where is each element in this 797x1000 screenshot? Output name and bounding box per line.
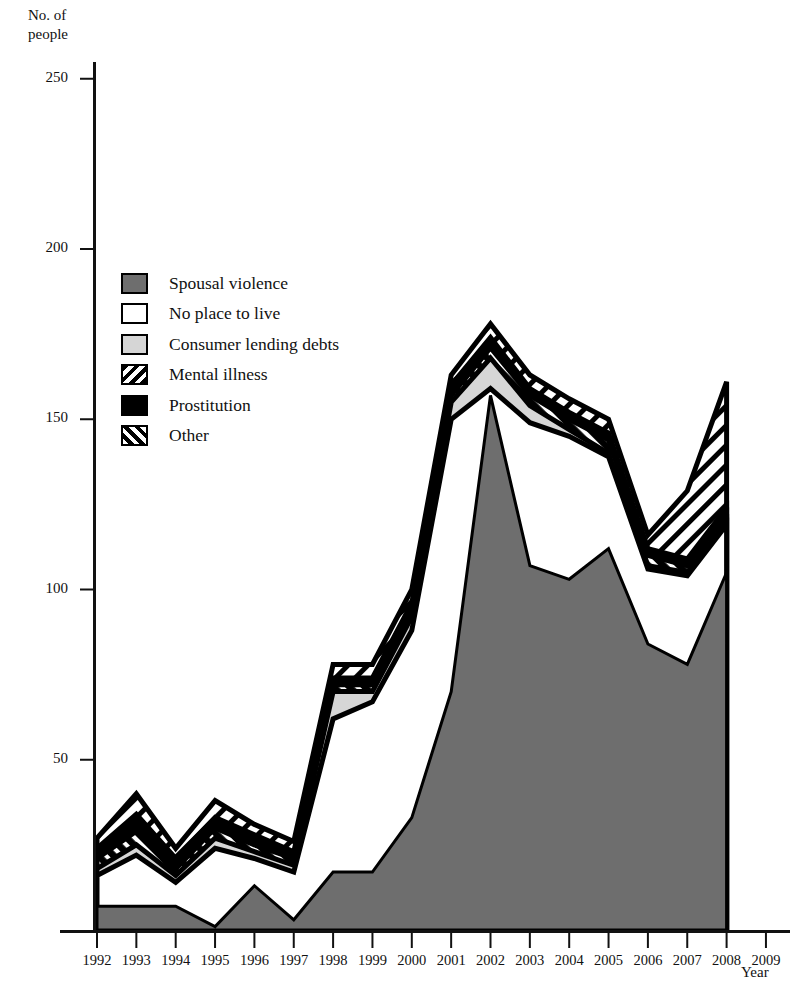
- y-tick-label: 150: [10, 409, 68, 426]
- legend-item-other[interactable]: Other: [121, 421, 339, 452]
- y-tick-label: 50: [10, 750, 68, 767]
- legend-item-label: No place to live: [169, 303, 280, 324]
- x-tick-label: 1995: [201, 952, 230, 969]
- x-tick-label: 1999: [358, 952, 387, 969]
- x-tick-label: 2005: [594, 952, 623, 969]
- x-tick-label: 2003: [515, 952, 544, 969]
- legend-item-prostitution[interactable]: Prostitution: [121, 390, 339, 421]
- x-tick-label: 1993: [122, 952, 151, 969]
- legend-swatch-icon: [121, 395, 148, 416]
- legend-item-no-place-to-live[interactable]: No place to live: [121, 299, 339, 330]
- legend-swatch-icon: [121, 273, 148, 294]
- legend-item-consumer-lending-debts[interactable]: Consumer lending debts: [121, 329, 339, 360]
- legend-swatch-icon: [121, 364, 148, 385]
- legend-item-label: Prostitution: [169, 395, 251, 416]
- x-tick-label: 2008: [712, 952, 741, 969]
- legend-item-label: Consumer lending debts: [169, 334, 339, 355]
- legend-swatch-icon: [121, 303, 148, 324]
- y-axis-title: No. of people: [28, 6, 68, 44]
- stacked-area-chart: No. of people Year: [0, 0, 797, 1000]
- x-tick-label: 1994: [161, 952, 190, 969]
- x-tick-label: 1997: [279, 952, 308, 969]
- x-tick-marks: [97, 933, 766, 948]
- legend-item-spousal-violence[interactable]: Spousal violence: [121, 268, 339, 299]
- chart-plot-area: [0, 0, 797, 1000]
- x-tick-label: 1998: [319, 952, 348, 969]
- x-tick-label: 2007: [673, 952, 702, 969]
- legend-item-label: Mental illness: [169, 364, 268, 385]
- y-tick-label: 250: [10, 69, 68, 86]
- x-tick-label: 1992: [83, 952, 112, 969]
- legend-item-mental-illness[interactable]: Mental illness: [121, 360, 339, 391]
- chart-legend: Spousal violenceNo place to liveConsumer…: [121, 268, 339, 451]
- x-tick-label: 2000: [397, 952, 426, 969]
- x-tick-label: 2009: [751, 952, 780, 969]
- y-tick-marks: [80, 79, 95, 760]
- x-tick-label: 2002: [476, 952, 505, 969]
- legend-item-label: Spousal violence: [169, 273, 288, 294]
- x-tick-label: 2006: [633, 952, 662, 969]
- legend-swatch-icon: [121, 334, 148, 355]
- x-tick-label: 2004: [555, 952, 584, 969]
- legend-item-label: Other: [169, 425, 209, 446]
- x-tick-label: 1996: [240, 952, 269, 969]
- legend-swatch-icon: [121, 425, 148, 446]
- x-tick-label: 2001: [437, 952, 466, 969]
- y-tick-label: 200: [10, 239, 68, 256]
- y-tick-label: 100: [10, 580, 68, 597]
